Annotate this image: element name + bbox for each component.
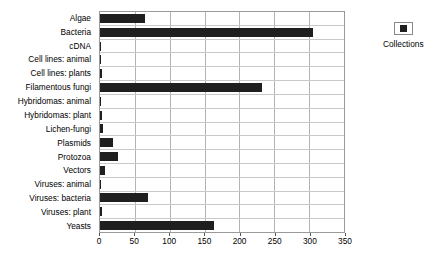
bar-row	[100, 81, 344, 95]
bar	[100, 83, 262, 92]
axis-tick-label: 150	[198, 237, 212, 245]
bar	[100, 42, 101, 51]
category-label: cDNA	[0, 39, 95, 53]
bar-row	[100, 95, 344, 109]
bar-row	[100, 136, 344, 150]
axis-tick-label: 300	[303, 237, 317, 245]
bar-row	[100, 219, 344, 232]
bar	[100, 221, 214, 230]
category-label: Lichen-fungi	[0, 122, 95, 136]
bar	[100, 97, 101, 106]
category-label: Hybridomas: plant	[0, 108, 95, 122]
bar-row	[100, 192, 344, 206]
bar-row	[100, 67, 344, 81]
bar-row	[100, 12, 344, 26]
bar-row	[100, 26, 344, 40]
bar-row	[100, 40, 344, 54]
category-label: Protozoa	[0, 150, 95, 164]
chart-legend: Collections	[383, 22, 424, 48]
bar-row	[100, 109, 344, 123]
bar	[100, 14, 145, 23]
category-label: Hybridomas: animal	[0, 94, 95, 108]
bar-chart: AlgaeBacteriacDNACell lines: animalCell …	[0, 0, 448, 266]
category-label: Cell lines: animal	[0, 53, 95, 67]
category-label: Yeasts	[0, 219, 95, 233]
plot-area	[99, 11, 345, 233]
axis-tick-label: 50	[130, 237, 139, 245]
category-label: Viruses: plant	[0, 205, 95, 219]
category-label: Vectors	[0, 164, 95, 178]
bar-row	[100, 178, 344, 192]
bar-rows	[100, 12, 344, 232]
bar-row	[100, 150, 344, 164]
legend-swatch-collections	[400, 25, 407, 32]
category-label: Filamentous fungi	[0, 80, 95, 94]
legend-label-collections: Collections	[383, 40, 424, 48]
bar-row	[100, 205, 344, 219]
bar	[100, 28, 313, 37]
bar	[100, 55, 101, 64]
category-label: Plasmids	[0, 136, 95, 150]
category-label: Viruses: bacteria	[0, 191, 95, 205]
legend-swatch-box	[394, 22, 413, 35]
bar-row	[100, 123, 344, 137]
axis-tick-label: 350	[338, 237, 352, 245]
bar	[100, 180, 101, 189]
category-label: Bacteria	[0, 25, 95, 39]
bar	[100, 193, 148, 202]
axis-tick-label: 100	[162, 237, 176, 245]
bar	[100, 152, 118, 161]
bar	[100, 111, 102, 120]
bar-row	[100, 53, 344, 67]
category-label: Cell lines: plants	[0, 67, 95, 81]
bar	[100, 166, 105, 175]
category-label: Viruses: animal	[0, 178, 95, 192]
value-axis: 050100150200250300350	[99, 233, 345, 255]
category-axis: AlgaeBacteriacDNACell lines: animalCell …	[0, 11, 95, 233]
axis-tick-label: 0	[97, 237, 102, 245]
bar	[100, 69, 102, 78]
bar	[100, 207, 102, 216]
category-label: Algae	[0, 11, 95, 25]
bar-row	[100, 164, 344, 178]
bar	[100, 124, 103, 133]
axis-tick-label: 200	[233, 237, 247, 245]
axis-tick-label: 250	[268, 237, 282, 245]
bar	[100, 138, 113, 147]
